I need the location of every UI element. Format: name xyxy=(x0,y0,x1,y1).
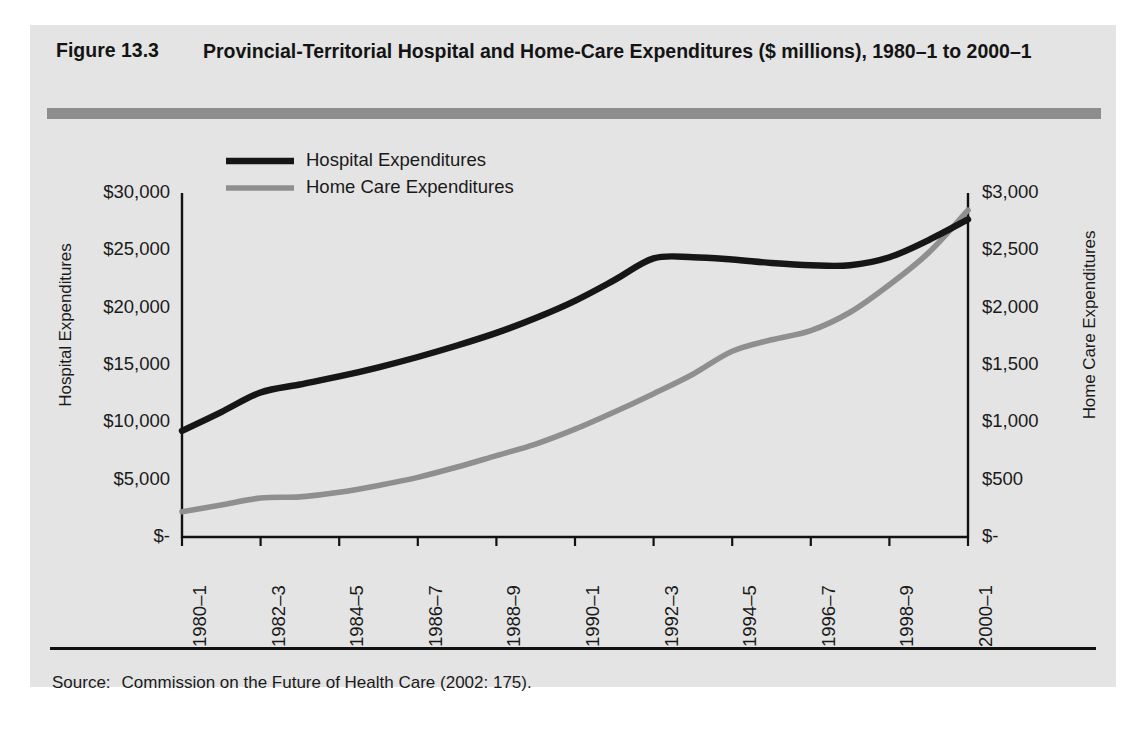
x-axis-tick: 1992–3 xyxy=(661,585,683,647)
line-chart-plot xyxy=(30,129,1116,619)
x-axis-tick: 1990–1 xyxy=(582,585,604,647)
source-text: Commission on the Future of Health Care … xyxy=(122,673,532,692)
figure-panel: Figure 13.3 Provincial-Territorial Hospi… xyxy=(30,25,1116,687)
source-label: Source: xyxy=(52,673,111,692)
y-axis-left-tick: $10,000 xyxy=(50,410,170,432)
y-axis-left-tick: $20,000 xyxy=(50,296,170,318)
x-axis-tick: 2000–1 xyxy=(975,585,997,647)
y-axis-right-tick: $- xyxy=(982,525,1102,547)
y-axis-right-tick: $2,500 xyxy=(982,238,1102,260)
figure-number: Figure 13.3 xyxy=(56,39,159,62)
figure-page: Figure 13.3 Provincial-Territorial Hospi… xyxy=(0,0,1147,729)
x-axis-tick: 1980–1 xyxy=(189,585,211,647)
y-axis-right-tick: $1,500 xyxy=(982,353,1102,375)
x-axis-tick: 1988–9 xyxy=(503,585,525,647)
x-axis-tick: 1986–7 xyxy=(425,585,447,647)
chart-region: Hospital Expenditures Home Care Expendit… xyxy=(30,129,1116,619)
page-title: Provincial-Territorial Hospital and Home… xyxy=(203,39,1032,65)
y-axis-left-tick: $15,000 xyxy=(50,353,170,375)
x-axis-tick: 1996–7 xyxy=(818,585,840,647)
y-axis-left-tick: $5,000 xyxy=(50,468,170,490)
x-axis-tick: 1982–3 xyxy=(268,585,290,647)
y-axis-left-tick: $25,000 xyxy=(50,238,170,260)
y-axis-right-tick: $1,000 xyxy=(982,410,1102,432)
source-note: Source:Commission on the Future of Healt… xyxy=(52,673,532,693)
title-divider-rule xyxy=(47,108,1101,119)
legend-item-label: Hospital Expenditures xyxy=(306,149,486,171)
x-axis-tick: 1998–9 xyxy=(896,585,918,647)
y-axis-left-tick: $30,000 xyxy=(50,181,170,203)
x-axis-tick: 1984–5 xyxy=(346,585,368,647)
source-divider-rule xyxy=(50,647,1096,650)
x-axis-tick: 1994–5 xyxy=(739,585,761,647)
figure-title-block: Figure 13.3 Provincial-Territorial Hospi… xyxy=(56,39,1096,65)
y-axis-left-tick: $- xyxy=(50,525,170,547)
y-axis-right-tick: $3,000 xyxy=(982,181,1102,203)
y-axis-right-tick: $500 xyxy=(982,468,1102,490)
legend-item-label: Home Care Expenditures xyxy=(306,176,514,198)
y-axis-right-tick: $2,000 xyxy=(982,296,1102,318)
